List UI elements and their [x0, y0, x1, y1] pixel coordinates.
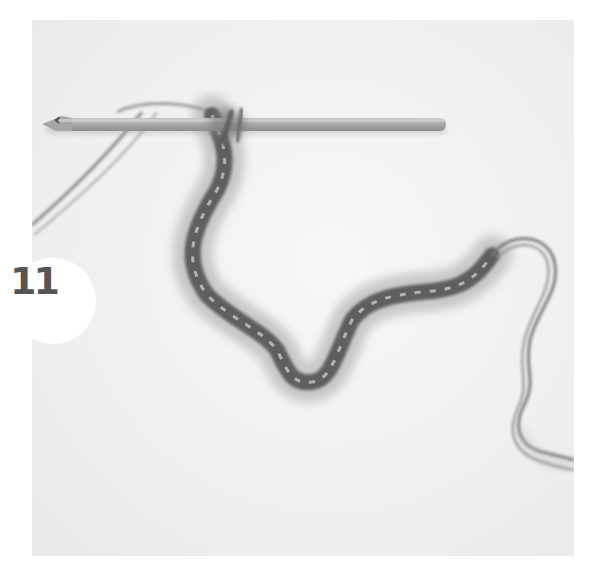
crochet-illustration [32, 20, 574, 556]
step-number: 11 [10, 258, 54, 304]
instruction-photo [32, 20, 574, 556]
yarn-tail-right [492, 239, 574, 470]
